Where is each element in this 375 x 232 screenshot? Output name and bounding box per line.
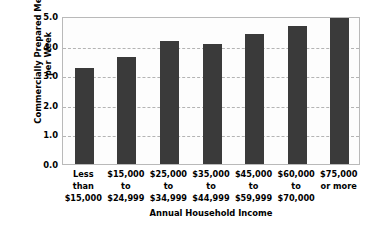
- x-tick-label: $75,000 or more: [309, 168, 369, 192]
- bar: [330, 17, 349, 164]
- y-axis-tick-labels: 0.01.02.03.04.05.0: [36, 17, 58, 165]
- bar-series: [63, 18, 359, 164]
- bar: [203, 44, 222, 164]
- bar: [75, 68, 94, 164]
- x-axis-title: Annual Household Income: [62, 208, 360, 218]
- bar: [160, 41, 179, 164]
- bar: [117, 57, 136, 164]
- plot-area: [62, 17, 360, 165]
- x-axis-tick-labels: Less than $15,000$15,000 to $24,999$25,0…: [62, 168, 360, 206]
- bar: [288, 26, 307, 164]
- y-tick-label: 3.0: [36, 71, 58, 81]
- bar-chart-figure: Commercially Prepared Meals per Week 0.0…: [0, 0, 375, 232]
- bar: [245, 34, 264, 164]
- y-tick-label: 5.0: [36, 12, 58, 22]
- y-tick-label: 4.0: [36, 42, 58, 52]
- y-tick-label: 1.0: [36, 130, 58, 140]
- y-tick-label: 2.0: [36, 101, 58, 111]
